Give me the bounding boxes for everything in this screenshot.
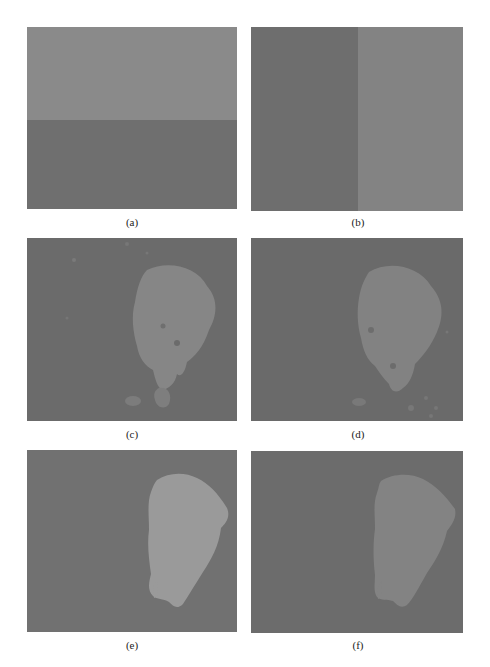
panel-c-graphic — [27, 238, 237, 421]
panel-d-label: (d) — [328, 428, 388, 440]
panel-f-label: (f) — [328, 639, 388, 651]
panel-e-label: (e) — [102, 639, 162, 651]
panel-a-label: (a) — [102, 216, 162, 228]
panel-a-graphic — [27, 27, 237, 209]
panel-b-graphic — [251, 27, 463, 211]
panel-d-image — [251, 238, 463, 421]
panel-a-image — [27, 27, 237, 209]
panel-e-image — [27, 450, 237, 632]
panel-f-graphic — [251, 451, 463, 633]
panel-d-graphic — [251, 238, 463, 421]
panel-b-image — [251, 27, 463, 211]
panel-c-label: (c) — [102, 428, 162, 440]
panel-c-image — [27, 238, 237, 421]
panel-e-graphic — [27, 450, 237, 632]
panel-b-label: (b) — [328, 216, 388, 228]
panel-f-image — [251, 451, 463, 633]
